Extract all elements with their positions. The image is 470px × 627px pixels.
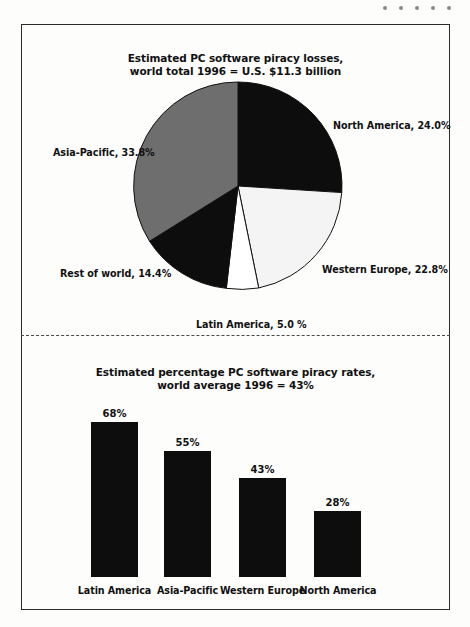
dot-icon <box>415 6 419 10</box>
dot-icon <box>431 6 435 10</box>
pie-label-rest-of-world: Rest of world, 14.4% <box>60 268 171 279</box>
pie-label-north-america: North America, 24.0% <box>333 120 450 131</box>
pie-label-latin-america: Latin America, 5.0 % <box>196 319 307 330</box>
bar-value-latin-america: 68% <box>91 408 138 419</box>
pie-svg <box>132 80 344 292</box>
bar-chart-graphic: 68% Latin America 55% Asia-Pacific 43% W… <box>22 336 470 610</box>
dot-icon <box>399 6 403 10</box>
pie-chart-graphic: North America, 24.0% Asia-Pacific, 33.8%… <box>22 25 470 336</box>
decorative-dots <box>380 4 452 14</box>
dot-icon <box>383 6 387 10</box>
bar-value-north-america: 28% <box>314 497 361 508</box>
figure-page: Estimated PC software piracy losses, wor… <box>0 0 470 627</box>
bar-western-europe <box>239 478 286 577</box>
bar-asia-pacific <box>164 451 211 577</box>
figure-frame: Estimated PC software piracy losses, wor… <box>21 24 450 610</box>
bar-north-america <box>314 511 361 577</box>
bar-value-asia-pacific: 55% <box>164 437 211 448</box>
bar-chart-panel: Estimated percentage PC software piracy … <box>22 336 449 610</box>
pie-label-western-europe: Western Europe, 22.8% <box>322 264 448 275</box>
bar-category-north-america: North America <box>290 585 386 596</box>
dot-icon <box>447 6 451 10</box>
pie-slice-north-america <box>238 82 342 193</box>
bar-latin-america <box>91 422 138 577</box>
pie-chart-panel: Estimated PC software piracy losses, wor… <box>22 25 449 336</box>
pie-label-asia-pacific: Asia-Pacific, 33.8% <box>53 147 155 158</box>
bar-value-western-europe: 43% <box>239 464 286 475</box>
